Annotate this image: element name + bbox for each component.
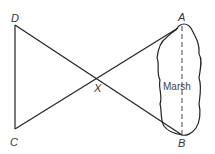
label-a: A <box>177 11 185 23</box>
marsh-label: Marsh <box>163 81 191 92</box>
segment-ca <box>15 28 178 129</box>
label-c: C <box>10 136 18 148</box>
label-x: X <box>93 82 102 94</box>
label-b: B <box>178 137 185 149</box>
marsh-region <box>157 24 201 135</box>
diagram: D A X C B Marsh <box>0 0 215 154</box>
label-d: D <box>11 12 19 24</box>
